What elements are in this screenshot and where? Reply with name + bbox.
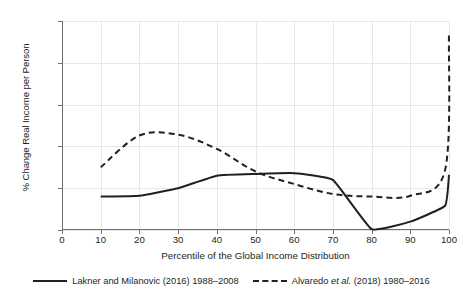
x-tick-label: 20 [119, 234, 159, 245]
x-tick-label: 0 [42, 234, 82, 245]
series-line-1 [101, 173, 449, 230]
x-tick-mark [294, 230, 295, 234]
legend-label: Lakner and Milanovic (2016) 1988–2008 [72, 276, 238, 286]
x-tick-mark [217, 230, 218, 234]
legend-swatch-solid-icon [33, 280, 67, 282]
x-tick-mark [62, 230, 63, 234]
legend-entry-2[interactable]: Alvaredo et al. (2018) 1980–2016 [253, 276, 430, 286]
x-tick-mark [372, 230, 373, 234]
y-axis-title: % Change Real Income per Person [20, 0, 31, 238]
x-tick-label: 10 [81, 234, 121, 245]
x-tick-label: 80 [352, 234, 392, 245]
x-tick-label: 60 [274, 234, 314, 245]
x-tick-label: 30 [158, 234, 198, 245]
gridline-vertical [449, 21, 450, 230]
legend-label: Alvaredo et al. (2018) 1980–2016 [292, 276, 430, 286]
x-tick-label: 100 [429, 234, 463, 245]
x-tick-label: 70 [313, 234, 353, 245]
x-tick-mark [410, 230, 411, 234]
x-tick-mark [256, 230, 257, 234]
chart-figure: % Change Real Income per Person 05010015… [0, 0, 463, 299]
x-tick-label: 40 [197, 234, 237, 245]
x-tick-label: 90 [390, 234, 430, 245]
legend-entry-1[interactable]: Lakner and Milanovic (2016) 1988–2008 [33, 276, 238, 286]
x-axis-title: Percentile of the Global Income Distribu… [62, 250, 449, 261]
plot-area: 050100150200250 0102030405060708090100 [62, 21, 449, 230]
legend-swatch-dashed-icon [253, 280, 287, 282]
data-series-layer [62, 21, 449, 230]
x-tick-mark [449, 230, 450, 234]
x-tick-mark [333, 230, 334, 234]
x-tick-mark [178, 230, 179, 234]
x-tick-mark [101, 230, 102, 234]
x-tick-mark [139, 230, 140, 234]
chart-legend: Lakner and Milanovic (2016) 1988–2008Alv… [0, 276, 463, 286]
x-tick-label: 50 [236, 234, 276, 245]
